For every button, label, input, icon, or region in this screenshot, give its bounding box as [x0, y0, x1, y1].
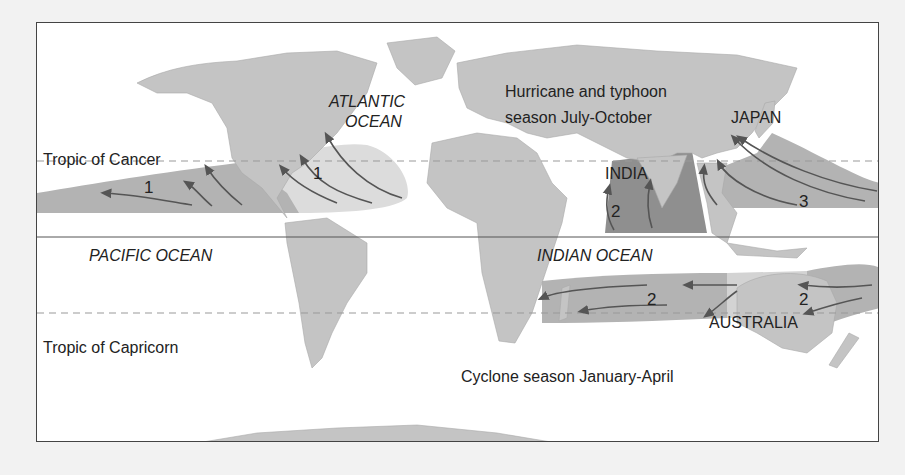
map-frame: Tropic of Cancer Tropic of Capricorn ATL… — [36, 22, 879, 442]
world-map — [37, 23, 879, 442]
indian-ocean-label: INDIAN OCEAN — [537, 247, 653, 265]
zone-number-south-pacific: 2 — [799, 291, 808, 309]
australia-label: AUSTRALIA — [709, 314, 798, 332]
japan-label: JAPAN — [731, 109, 781, 127]
india-label: INDIA — [605, 165, 648, 183]
tropic-of-cancer-label: Tropic of Cancer — [43, 151, 161, 169]
zone-number-east-pacific: 1 — [144, 179, 153, 197]
pacific-ocean-label: PACIFIC OCEAN — [89, 247, 212, 265]
atlantic-ocean-label-line1: ATLANTIC — [329, 93, 405, 111]
southern-season-label: Cyclone season January-April — [461, 368, 674, 386]
tropic-of-capricorn-label: Tropic of Capricorn — [43, 339, 178, 357]
northern-season-label-line2: season July-October — [505, 109, 652, 127]
zone-number-south-indian: 2 — [647, 291, 656, 309]
zone-south-indian — [542, 273, 727, 323]
zone-number-atlantic: 1 — [313, 165, 322, 183]
atlantic-ocean-label-line2: OCEAN — [345, 113, 402, 131]
zone-number-north-indian: 2 — [611, 203, 620, 221]
zone-number-west-pacific: 3 — [799, 193, 808, 211]
northern-season-label-line1: Hurricane and typhoon — [505, 83, 667, 101]
